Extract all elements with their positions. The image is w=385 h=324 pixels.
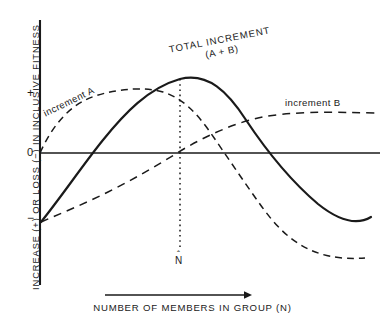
x-direction-arrow <box>105 291 252 299</box>
optimum-group-size-label: ˆN <box>175 251 183 265</box>
series-increment-a-curve <box>40 89 365 258</box>
n-hat-letter: N <box>175 255 183 266</box>
y-tick-label-plus: + <box>27 86 35 100</box>
chart-figure: INCREASE (+) OR LOSS (−) IN INCLUSIVE FI… <box>0 0 385 324</box>
x-axis-title: NUMBER OF MEMBERS IN GROUP (N) <box>0 302 385 313</box>
y-tick-label-zero: 0 <box>27 146 34 158</box>
y-tick-label-minus: − <box>27 211 35 225</box>
series-label-increment-b: increment B <box>285 97 341 108</box>
